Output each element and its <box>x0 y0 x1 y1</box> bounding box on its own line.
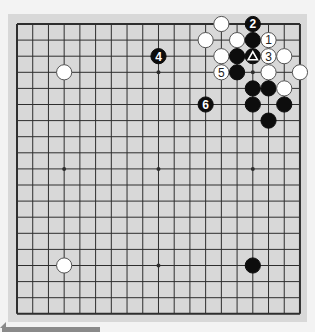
star-point <box>251 167 255 171</box>
move-number-label: 1 <box>265 33 272 47</box>
white-stone <box>198 33 213 48</box>
white-stone <box>277 49 292 64</box>
black-stone <box>229 49 244 64</box>
white-stone <box>214 49 229 64</box>
black-stone <box>245 81 260 96</box>
black-stone <box>261 81 276 96</box>
white-stone <box>229 33 244 48</box>
black-stone <box>229 65 244 80</box>
white-stone <box>261 65 276 80</box>
star-point <box>156 264 160 268</box>
black-stone <box>245 33 260 48</box>
white-stone <box>277 81 292 96</box>
star-point <box>62 167 66 171</box>
black-stone <box>277 97 292 112</box>
star-point <box>251 70 255 74</box>
star-point <box>156 70 160 74</box>
move-number-label: 2 <box>249 17 256 31</box>
white-stone <box>57 65 72 80</box>
move-number-label: 5 <box>218 66 225 80</box>
white-stone <box>292 65 307 80</box>
black-stone <box>245 258 260 273</box>
white-stone <box>57 258 72 273</box>
black-stone <box>261 113 276 128</box>
move-number-label: 3 <box>265 50 272 64</box>
move-number-label: 6 <box>202 98 209 112</box>
black-stone <box>245 97 260 112</box>
star-point <box>156 167 160 171</box>
go-board-diagram: 213546 <box>0 0 315 332</box>
white-stone <box>214 16 229 31</box>
move-number-label: 4 <box>155 50 162 64</box>
